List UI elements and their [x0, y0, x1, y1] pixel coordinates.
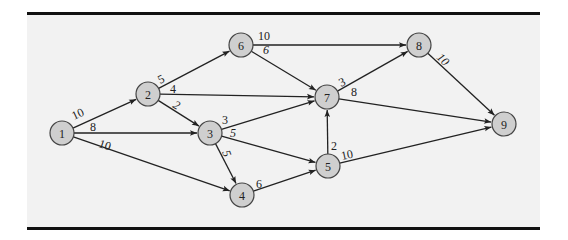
- edge-7-8: [337, 51, 407, 91]
- edge-weight-2-7: 4: [170, 82, 176, 96]
- edge-weight-3-7: 3: [222, 113, 228, 127]
- edge-weight-7-9: 8: [351, 85, 357, 99]
- edge-labels-group: 1081054235562101063810: [69, 29, 452, 191]
- edge-weight-7-8: 3: [336, 74, 347, 89]
- edge-weight-1-3: 8: [90, 120, 96, 134]
- edge-3-5: [222, 136, 316, 162]
- edges-group: [73, 45, 495, 191]
- edge-weight-3-5: 5: [230, 126, 236, 140]
- node-label: 7: [324, 91, 330, 105]
- edge-weight-6-7: 6: [263, 43, 269, 57]
- node-8: 8: [407, 33, 431, 57]
- edge-6-7: [251, 51, 316, 90]
- edge-5-7: [327, 110, 328, 154]
- node-3: 3: [198, 121, 222, 145]
- node-7: 7: [315, 85, 339, 109]
- node-label: 5: [325, 160, 331, 174]
- edge-weight-6-8: 10: [258, 29, 270, 43]
- node-1: 1: [50, 121, 74, 145]
- node-label: 8: [416, 39, 422, 53]
- network-diagram: 1081054235562101063810 123456789: [0, 0, 568, 240]
- node-6: 6: [229, 33, 253, 57]
- node-label: 4: [239, 189, 245, 203]
- node-label: 2: [145, 88, 151, 102]
- edge-4-5: [253, 170, 315, 191]
- edge-7-9: [339, 99, 491, 122]
- edge-weight-2-6: 5: [155, 71, 166, 86]
- edge-weight-5-9: 10: [340, 147, 355, 163]
- edge-weight-3-4: 5: [219, 148, 234, 158]
- edge-weight-4-5: 6: [256, 177, 262, 191]
- edge-weight-2-3: 2: [171, 97, 183, 112]
- node-label: 1: [59, 127, 65, 141]
- edge-weight-8-9: 10: [434, 50, 452, 68]
- node-label: 3: [207, 127, 213, 141]
- edge-weight-5-7: 2: [331, 139, 337, 153]
- node-label: 9: [501, 118, 507, 132]
- node-5: 5: [316, 154, 340, 178]
- edge-weight-1-4: 10: [97, 137, 113, 154]
- node-2: 2: [136, 82, 160, 106]
- node-label: 6: [238, 39, 244, 53]
- edge-5-9: [340, 127, 492, 163]
- node-9: 9: [492, 112, 516, 136]
- edge-weight-1-2: 10: [69, 105, 86, 123]
- node-4: 4: [230, 183, 254, 207]
- edge-2-7: [160, 94, 314, 97]
